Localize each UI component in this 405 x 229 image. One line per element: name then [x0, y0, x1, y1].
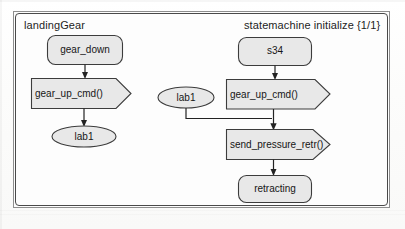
diagram-shapes-layer	[0, 0, 405, 229]
node-label-retracting: retracting	[238, 183, 312, 194]
connector-lab1-right-elbow	[186, 108, 272, 119]
scan-artifact	[0, 210, 405, 211]
node-label-lab1-right: lab1	[158, 92, 214, 103]
node-label-send-pressure-retr: send_pressure_retr()	[230, 139, 320, 150]
node-label-gear-down: gear_down	[47, 44, 123, 55]
node-label-s34: s34	[238, 45, 312, 56]
node-label-gear-up-cmd-left: gear_up_cmd()	[35, 88, 115, 99]
node-label-gear-up-cmd-right: gear_up_cmd()	[230, 89, 310, 100]
diagram-canvas: landingGear statemachine initialize {1/1…	[0, 0, 405, 229]
node-label-lab1-left: lab1	[52, 131, 116, 142]
scan-edge-artifact	[0, 0, 2, 229]
scan-artifact	[0, 214, 405, 215]
scan-edge-artifact	[0, 0, 405, 2]
